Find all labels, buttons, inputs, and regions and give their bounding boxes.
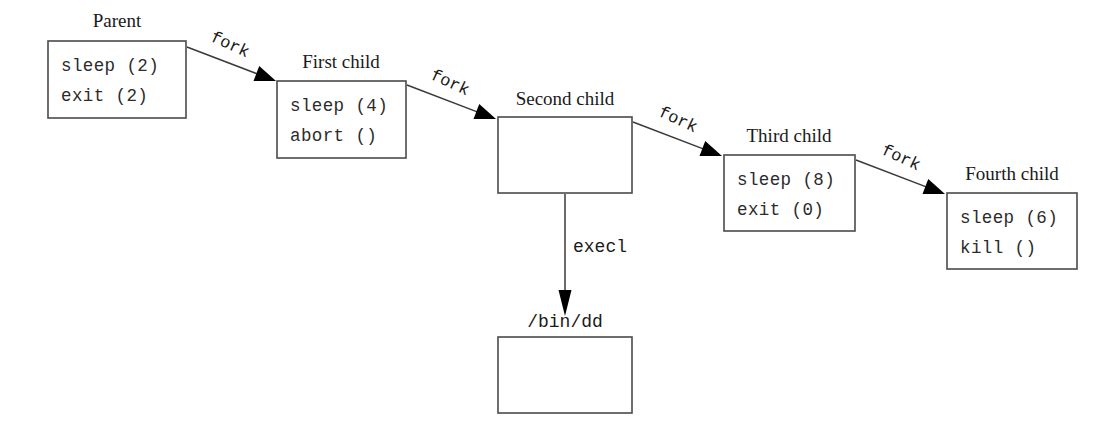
process-flow-diagram: Parentsleep (2)exit (2)First childsleep … [0,0,1101,433]
node-first-child[interactable]: First childsleep (4)abort () [277,51,406,158]
node-box-second-child[interactable] [498,117,632,193]
node-title-bin-dd: /bin/dd [527,312,603,332]
arrow-head-fork-4 [923,179,945,194]
node-title-second-child: Second child [516,88,615,109]
node-box-parent[interactable] [48,41,186,118]
edge-label-execl-1: execl [573,237,627,257]
node-third-child[interactable]: Third childsleep (8)exit (0) [724,125,855,231]
nodes-layer: Parentsleep (2)exit (2)First childsleep … [48,10,1077,413]
edge-label-fork-3: fork [655,103,700,137]
node-code-line-parent-1: exit (2) [61,86,148,106]
diagram-canvas: Parentsleep (2)exit (2)First childsleep … [0,0,1101,433]
node-code-line-first-child-0: sleep (4) [290,96,388,116]
node-box-first-child[interactable] [277,81,406,158]
node-bin-dd[interactable]: /bin/dd [498,312,632,413]
node-title-fourth-child: Fourth child [965,163,1059,184]
node-code-line-first-child-1: abort () [290,126,377,146]
arrow-head-fork-1 [254,66,276,81]
node-box-bin-dd[interactable] [498,337,632,413]
node-code-line-fourth-child-0: sleep (6) [960,208,1058,228]
node-code-line-fourth-child-1: kill () [960,238,1036,258]
edge-execl-1 [559,194,572,316]
node-title-third-child: Third child [747,125,832,146]
arrow-head-fork-3 [700,141,722,156]
node-code-line-third-child-0: sleep (8) [737,170,835,190]
node-title-first-child: First child [302,51,380,72]
node-parent[interactable]: Parentsleep (2)exit (2) [48,10,186,118]
node-second-child[interactable]: Second child [498,88,632,193]
arrow-head-fork-2 [474,104,496,119]
edge-label-fork-4: fork [878,141,923,175]
node-fourth-child[interactable]: Fourth childsleep (6)kill () [947,163,1077,269]
node-code-line-parent-0: sleep (2) [61,56,159,76]
node-code-line-third-child-1: exit (0) [737,200,824,220]
node-title-parent: Parent [93,10,142,31]
